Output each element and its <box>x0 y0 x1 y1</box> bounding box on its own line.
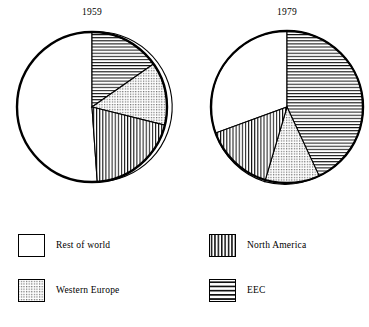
pie-chart-figure <box>0 0 369 327</box>
legend-swatch-rest-of-world[interactable] <box>18 234 45 257</box>
legend-label-western-europe: Western Europe <box>56 285 120 295</box>
pie-chart-1959 <box>17 32 172 182</box>
legend-swatch-eec[interactable] <box>209 279 236 302</box>
legend-label-north-america: North America <box>247 240 306 250</box>
legend-swatch-north-america[interactable] <box>209 234 236 257</box>
pie-chart-1979 <box>211 31 363 184</box>
pie-title-1979: 1979 <box>257 7 317 17</box>
legend-swatches <box>19 235 236 302</box>
legend-label-rest-of-world: Rest of world <box>56 240 110 250</box>
legend-swatch-western-europe[interactable] <box>18 279 45 302</box>
pie-title-1959: 1959 <box>62 7 122 17</box>
legend-label-eec: EEC <box>247 285 266 295</box>
